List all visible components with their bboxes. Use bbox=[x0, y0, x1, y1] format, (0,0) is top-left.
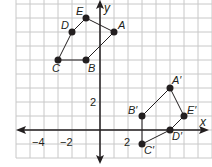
x-axis-label: x bbox=[199, 115, 207, 129]
point-label-B: B bbox=[88, 62, 95, 74]
point-label-E-prime: E′ bbox=[187, 104, 197, 116]
point-label-A-prime: A′ bbox=[171, 74, 182, 86]
point-label-A: A bbox=[117, 19, 125, 31]
point-label-C-prime: C′ bbox=[144, 144, 155, 156]
tick-label-y-2: 2 bbox=[90, 96, 96, 108]
point-label-E: E bbox=[76, 5, 84, 17]
polygons: ABCDEA′B′C′D′E′ bbox=[52, 5, 197, 156]
tick-label-x-neg2: −2 bbox=[60, 136, 73, 148]
graph-svg: x y −4 −2 2 2 ABCDEA′B′C′D′E′ bbox=[0, 0, 212, 167]
y-axis-label: y bbox=[103, 1, 111, 15]
point-label-D: D bbox=[61, 19, 69, 31]
point-E bbox=[83, 15, 90, 22]
tick-label-x-2: 2 bbox=[124, 136, 130, 148]
point-D bbox=[69, 29, 76, 36]
tick-label-x-neg4: −4 bbox=[32, 136, 45, 148]
point-label-C: C bbox=[52, 62, 60, 74]
point-label-B-prime: B′ bbox=[128, 104, 138, 116]
point-B-prime bbox=[139, 113, 146, 120]
grid-lines bbox=[16, 0, 212, 158]
point-label-D-prime: D′ bbox=[172, 130, 183, 142]
coordinate-graph: x y −4 −2 2 2 ABCDEA′B′C′D′E′ bbox=[0, 0, 212, 167]
point-A bbox=[111, 29, 118, 36]
